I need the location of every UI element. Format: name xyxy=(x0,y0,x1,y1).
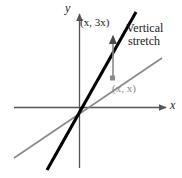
identity-point-marker xyxy=(110,76,115,81)
point-label-identity: (x, x) xyxy=(112,83,136,95)
annotation-vertical-stretch-line1: Vertical xyxy=(126,21,163,35)
axis-label-y: y xyxy=(65,2,70,15)
point-label-stretched: (x, 3x) xyxy=(80,17,109,29)
annotation-vertical-stretch: Vertical stretch xyxy=(126,22,163,47)
annotation-vertical-stretch-line2: stretch xyxy=(128,35,163,48)
axis-label-x: x xyxy=(170,99,175,112)
vertical-stretch-graph-figure: y x (x, 3x) (x, x) Vertical stretch xyxy=(0,0,182,178)
